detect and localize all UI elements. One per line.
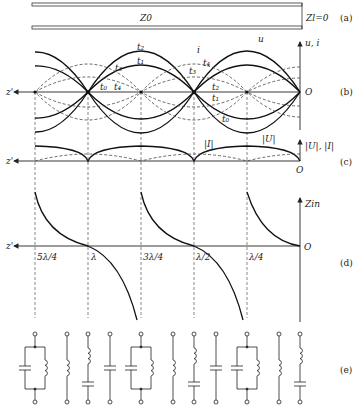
inductor-1 bbox=[65, 332, 69, 404]
i-label: i bbox=[197, 45, 200, 55]
U-label: |U| bbox=[262, 134, 276, 145]
panel-b-tag: (b) bbox=[340, 87, 353, 97]
panel-b-instantaneous: z' O u, i u i t₂ t₁ t₃ t₀ t₄ t₄ t₃ t₂ t₁… bbox=[5, 34, 353, 133]
inductor-2 bbox=[171, 332, 175, 404]
t4-label-2: t₄ bbox=[203, 58, 211, 68]
guide-lines bbox=[35, 92, 247, 318]
tick-5l4: 5λ/4 bbox=[37, 252, 57, 262]
panel-d-impedance: z' O Zin 5λ/4 λ 3λ/4 λ/2 λ/4 (d) bbox=[5, 192, 353, 322]
series-lc-3 bbox=[294, 332, 306, 404]
b-origin: O bbox=[305, 87, 313, 97]
t3-label-2: t₃ bbox=[189, 66, 197, 76]
parallel-lc-2 bbox=[125, 332, 153, 404]
b-yaxis: u, i bbox=[305, 38, 320, 48]
t1-label: t₁ bbox=[137, 56, 144, 66]
panel-c-tag: (c) bbox=[340, 157, 352, 167]
panel-e-tag: (e) bbox=[340, 365, 352, 375]
series-lc-1 bbox=[82, 332, 94, 404]
panel-c-magnitudes: z' O |U|, |I| |U| |I| (c) bbox=[5, 134, 352, 175]
inductor-3 bbox=[277, 332, 281, 404]
d-origin: O bbox=[304, 242, 312, 252]
t0-label-2: t₀ bbox=[222, 114, 230, 124]
b-zprime: z' bbox=[5, 87, 13, 97]
t4-label: t₄ bbox=[114, 82, 122, 92]
panel-e-circuits bbox=[19, 332, 306, 404]
panel-a-tag: (a) bbox=[340, 13, 352, 23]
t2-label-2: t₂ bbox=[212, 82, 220, 92]
parallel-lc-1 bbox=[19, 332, 47, 404]
t3-label: t₃ bbox=[115, 63, 123, 73]
d-yaxis: Zin bbox=[304, 199, 320, 209]
panel-d-tag: (d) bbox=[340, 258, 353, 268]
standing-wave-diagram: Z0 Zl=0 (a) z' O bbox=[0, 0, 358, 415]
I-label: |I| bbox=[204, 139, 214, 150]
c-zprime: z' bbox=[5, 156, 13, 166]
capacitor-1 bbox=[104, 332, 116, 404]
d-zprime: z' bbox=[5, 241, 13, 251]
parallel-lc-3 bbox=[231, 332, 259, 404]
tick-l: λ bbox=[90, 252, 97, 262]
load-label: Zl=0 bbox=[305, 13, 329, 23]
c-yaxis: |U|, |I| bbox=[305, 141, 334, 152]
u-label: u bbox=[258, 34, 264, 44]
series-lc-2 bbox=[188, 332, 200, 404]
panel-a-transmission-line: Z0 Zl=0 (a) bbox=[32, 3, 352, 29]
c-origin: O bbox=[296, 165, 304, 175]
tick-l4: λ/4 bbox=[248, 252, 264, 262]
t0-label: t₀ bbox=[100, 82, 108, 92]
z0-label: Z0 bbox=[139, 13, 152, 23]
t1-label-2: t₁ bbox=[212, 93, 219, 103]
tick-3l4: 3λ/4 bbox=[143, 252, 163, 262]
tick-l2: λ/2 bbox=[195, 252, 211, 262]
capacitor-2 bbox=[210, 332, 222, 404]
t2-label: t₂ bbox=[137, 42, 145, 52]
